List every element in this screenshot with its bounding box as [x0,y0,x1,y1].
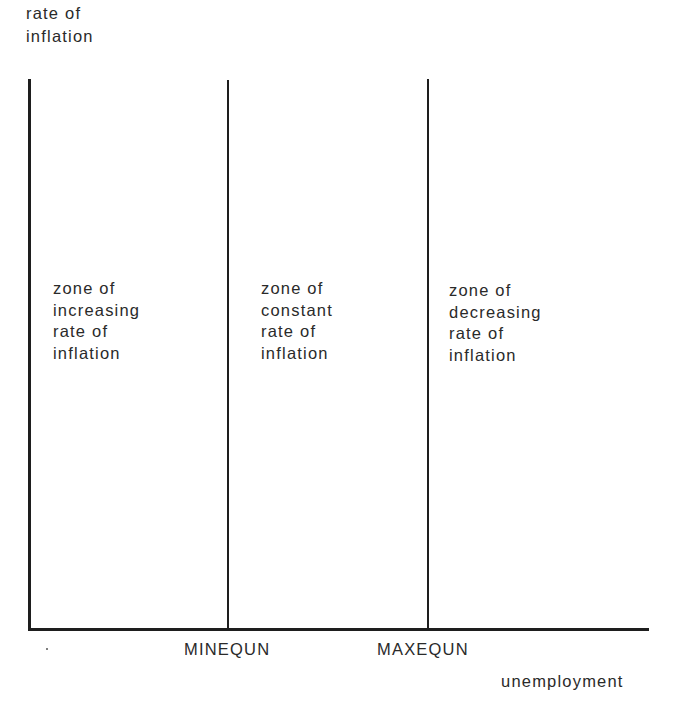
x-axis-label: unemployment [501,672,624,691]
zone-constant: zone of constant rate of inflation [261,278,333,364]
zone-label-line: decreasing [449,302,542,324]
zone-label-line: zone of [53,278,140,300]
zone-label-line: rate of [261,321,333,343]
zone-label-line: zone of [261,278,333,300]
maxequn-line [427,79,429,630]
zone-label-line: constant [261,300,333,322]
zone-decreasing: zone of decreasing rate of inflation [449,280,542,366]
y-axis [28,79,31,631]
zone-label-line: rate of [53,321,140,343]
zone-label-line: rate of [449,323,542,345]
zone-label-line: inflation [261,343,333,365]
zone-label-line: inflation [449,345,542,367]
y-axis-label-line-1: rate of [26,4,81,23]
zone-label-line: inflation [53,343,140,365]
minequn-line [227,80,229,630]
y-axis-label-line-2: inflation [26,27,94,46]
zone-increasing: zone of increasing rate of inflation [53,278,140,364]
scan-speck [46,648,48,650]
x-axis [28,628,649,631]
zone-label-line: zone of [449,280,542,302]
zone-label-line: increasing [53,300,140,322]
minequn-label: MINEQUN [184,640,270,659]
maxequn-label: MAXEQUN [377,640,469,659]
